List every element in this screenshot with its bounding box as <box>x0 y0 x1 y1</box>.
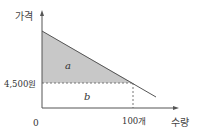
region-a-label: a <box>65 60 71 71</box>
origin-label: 0 <box>33 118 39 128</box>
x-axis-arrow-icon <box>173 106 179 110</box>
y-axis-arrow-icon <box>40 10 44 16</box>
y-axis-label: 가격 <box>15 10 33 22</box>
price-label: 4,500원 <box>4 79 36 89</box>
demand-diagram: 가격 수량 0 4,500원 100개 a b <box>0 0 200 136</box>
quantity-label: 100개 <box>122 116 146 126</box>
region-b-label: b <box>84 91 90 102</box>
x-axis-label: 수량 <box>171 117 189 128</box>
